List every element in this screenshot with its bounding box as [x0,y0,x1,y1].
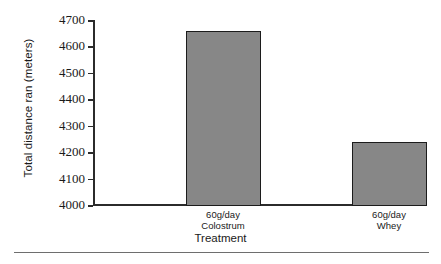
y-tick-label: 4500 [59,65,85,80]
x-category-label-line1: 60g/day [206,209,240,220]
y-tick-label: 4600 [59,38,85,53]
y-tick-mark [88,152,93,154]
y-tick-mark [88,126,93,128]
y-tick-label: 4400 [59,91,85,106]
y-tick-label: 4700 [59,12,85,27]
bar [352,142,427,206]
bar [186,31,261,206]
y-tick-label: 4000 [59,197,85,212]
x-category-label-line2: Whey [329,221,441,232]
y-tick-mark [88,46,93,48]
y-tick-mark [88,73,93,75]
x-category-label: 60g/dayWhey [329,210,441,231]
y-tick-mark [88,99,93,101]
x-category-label-line2: Colostrum [163,221,283,232]
x-category-label: 60g/dayColostrum [163,210,283,231]
y-tick-label: 4300 [59,118,85,133]
x-axis-title: Treatment [0,232,441,244]
y-axis-line [93,20,95,205]
y-tick-mark [88,205,93,207]
y-tick-mark [88,179,93,181]
plot-area: 40004100420043004400450046004700 60g/day… [93,20,424,205]
y-tick-label: 4100 [59,171,85,186]
y-axis-title: Total distance ran (meters) [22,8,34,208]
y-tick-label: 4200 [59,144,85,159]
bar-chart-figure: Total distance ran (meters) 400041004200… [0,0,441,264]
y-tick-mark [88,20,93,22]
x-category-label-line1: 60g/day [372,209,406,220]
bottom-divider [14,252,429,253]
